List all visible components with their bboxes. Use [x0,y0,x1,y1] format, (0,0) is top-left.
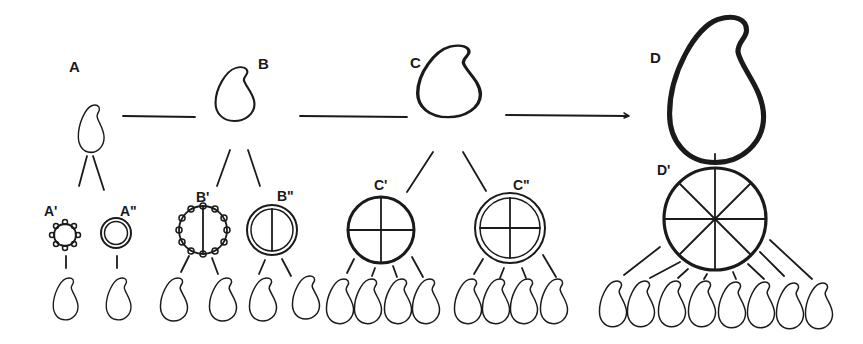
offspring-D1-4 [688,281,715,327]
offspring-C2-1 [454,279,481,324]
offspring-D1-6 [747,282,774,328]
label-D1: D' [657,163,670,177]
cell-A [78,105,104,152]
offspring-B1-1 [160,278,187,321]
offspring-C1-1 [326,279,353,324]
offspring-C1-3 [384,279,411,324]
offspring-D1-3 [658,281,685,327]
offspring-D1-8 [805,283,832,329]
spore-A2-double-wall [101,218,131,248]
spore-A1-ornamented [50,220,81,251]
connectors-C2 [474,255,556,278]
spore-C1-thick-wall [348,197,414,263]
spore-B2-double-wall [247,205,297,255]
offspring-A2-1 [106,278,131,320]
connector-B2-left [259,260,265,274]
label-B1: B' [196,190,209,204]
offspring-B2-2 [292,276,319,319]
connectors-D1 [624,240,812,279]
cell-B [216,67,255,121]
connectors-C1 [347,257,423,277]
spore-C2-double-wall [475,193,545,263]
connector-B2-right [282,259,291,276]
label-C1: C' [374,178,387,192]
cell-C [418,46,481,118]
connector-C-right [463,152,486,191]
label-B2: B" [277,189,294,203]
label-C: C [410,55,421,70]
connector-B1-left [181,256,189,272]
offspring-B2-1 [249,278,276,321]
label-A: A [69,59,80,74]
offspring-C1-4 [412,279,439,324]
label-B: B [258,56,269,71]
cell-D [670,17,764,162]
offspring-C1-2 [354,279,381,324]
connector-B-left [217,150,230,186]
offspring-D1-1 [599,281,626,327]
label-A1: A' [44,204,57,218]
connector-C-left [407,152,433,192]
connector-C-D-arrow [506,113,629,118]
offspring-C2-2 [482,279,509,324]
connector-B1-right [212,258,218,274]
connector-B-C [300,116,407,117]
connector-A-children [79,156,104,190]
label-D: D [650,50,661,65]
offspring-D1-5 [718,282,745,328]
offspring-D1-2 [627,281,654,327]
offspring-B1-2 [209,278,236,321]
cell-division-diagram [0,0,863,344]
offspring-C2-3 [510,279,537,324]
spore-B1-ornamented [176,203,230,257]
offspring-A1-1 [53,278,78,320]
offspring-C2-4 [540,279,567,324]
offspring-D1-7 [776,283,803,329]
connector-A-B [123,116,195,117]
spore-D1-thick-wall [664,168,766,270]
connector-B-right [248,150,260,186]
label-A2: A" [120,204,137,218]
label-C2: C" [513,178,530,192]
